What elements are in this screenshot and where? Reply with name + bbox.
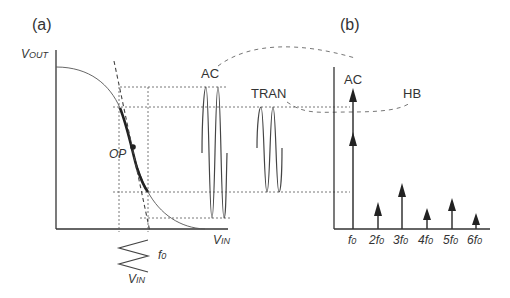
spectrum-ac-label: AC bbox=[344, 72, 362, 87]
spectrum-hb-label: HB bbox=[403, 86, 421, 101]
harmonic-6f0 bbox=[472, 213, 480, 229]
harmonic-label-4: 4f0 bbox=[418, 233, 433, 247]
input-label: VIN bbox=[128, 272, 146, 286]
tran-output-wave bbox=[257, 107, 282, 192]
panel-b-label: (b) bbox=[340, 16, 360, 33]
ac-connector bbox=[218, 47, 355, 66]
harmonic-label-1: f0 bbox=[348, 233, 356, 247]
harmonic-5f0 bbox=[448, 198, 456, 229]
harmonic-label-3: 3f0 bbox=[393, 233, 408, 247]
ac-wave-label: AC bbox=[201, 66, 219, 81]
harmonic-label-2: 2f0 bbox=[368, 233, 384, 247]
harmonic-label-5: 5f0 bbox=[443, 233, 458, 247]
input-freq-label: f0 bbox=[158, 248, 166, 262]
harmonic-f0 bbox=[349, 88, 357, 229]
diagram-canvas: (a) VOUT VIN OP f0 VIN AC TRAN (b) AC HB bbox=[0, 0, 510, 298]
panel-a-label: (a) bbox=[32, 16, 52, 33]
harmonic-label-6: 6f0 bbox=[467, 233, 482, 247]
tran-wave-label: TRAN bbox=[251, 86, 286, 101]
harmonic-2f0 bbox=[374, 202, 382, 229]
harmonic-3f0 bbox=[398, 183, 406, 229]
operating-point-label: OP bbox=[109, 147, 126, 161]
harmonic-4f0 bbox=[423, 208, 431, 229]
x-axis-label: VIN bbox=[213, 233, 231, 247]
input-wave bbox=[119, 240, 148, 272]
y-axis-label: VOUT bbox=[21, 47, 50, 61]
operating-point-marker bbox=[130, 144, 136, 150]
